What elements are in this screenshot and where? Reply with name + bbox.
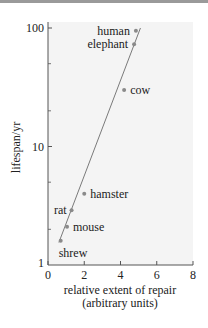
y-axis-label: lifespan/yr — [9, 98, 24, 198]
point-label-shrew: shrew — [59, 246, 88, 260]
data-point-mouse — [65, 225, 69, 229]
point-label-rat: rat — [54, 203, 67, 217]
x-tick-label: 0 — [45, 268, 51, 282]
x-tick-label: 2 — [81, 268, 87, 282]
data-point-elephant — [132, 42, 136, 46]
data-point-human — [134, 29, 138, 33]
data-point-shrew — [59, 239, 63, 243]
x-tick-label: 8 — [190, 268, 196, 282]
data-point-cow — [122, 88, 126, 92]
point-label-mouse: mouse — [73, 220, 104, 234]
point-label-hamster: hamster — [90, 187, 128, 201]
y-tick-label: 1 — [38, 256, 44, 270]
data-point-hamster — [82, 192, 86, 196]
point-label-human: human — [97, 24, 130, 38]
data-point-rat — [70, 208, 74, 212]
y-tick-label: 10 — [32, 140, 44, 154]
scatter-chart: 02468110100humanelephantcowhamsterratmou… — [0, 0, 208, 328]
point-label-elephant: elephant — [87, 37, 128, 51]
x-axis-label-line2: (arbitrary units) — [40, 297, 200, 310]
x-tick-label: 6 — [154, 268, 160, 282]
x-axis-label: relative extent of repair (arbitrary uni… — [40, 284, 200, 310]
y-tick-label: 100 — [26, 21, 44, 35]
x-tick-label: 4 — [118, 268, 124, 282]
point-label-cow: cow — [130, 83, 150, 97]
